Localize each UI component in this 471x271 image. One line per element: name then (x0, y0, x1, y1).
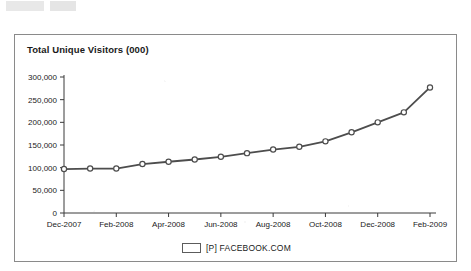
y-axis: 050,000100,000150,000200,000250,000300,0… (28, 73, 64, 218)
svg-text:Aug-2008: Aug-2008 (256, 220, 291, 229)
x-axis: Dec-2007Feb-2008Apr-2008Jun-2008Aug-2008… (47, 213, 448, 229)
legend-swatch-icon (182, 243, 201, 253)
svg-text:Feb-2008: Feb-2008 (99, 220, 134, 229)
chart-panel: Total Unique Visitors (000) 050,000100,0… (14, 34, 457, 262)
data-series-facebook (61, 85, 432, 172)
svg-text:200,000: 200,000 (28, 118, 57, 127)
svg-text:300,000: 300,000 (28, 73, 57, 82)
svg-text:Oct-2008: Oct-2008 (309, 220, 342, 229)
line-chart-svg: 050,000100,000150,000200,000250,000300,0… (15, 35, 458, 263)
svg-text:Feb-2009: Feb-2009 (413, 220, 448, 229)
svg-text:Apr-2008: Apr-2008 (152, 220, 185, 229)
svg-text:0: 0 (53, 209, 58, 218)
legend-label: [P] FACEBOOK.COM (206, 243, 291, 253)
svg-text:100,000: 100,000 (28, 164, 57, 173)
svg-text:Dec-2007: Dec-2007 (47, 220, 82, 229)
svg-text:50,000: 50,000 (33, 186, 58, 195)
svg-text:Jun-2008: Jun-2008 (204, 220, 238, 229)
plot-area: 050,000100,000150,000200,000250,000300,0… (15, 35, 458, 263)
svg-text:250,000: 250,000 (28, 96, 57, 105)
chart-legend: [P] FACEBOOK.COM (15, 243, 458, 253)
svg-text:150,000: 150,000 (28, 141, 57, 150)
scan-artifact (6, 1, 92, 11)
svg-text:Dec-2008: Dec-2008 (360, 220, 395, 229)
